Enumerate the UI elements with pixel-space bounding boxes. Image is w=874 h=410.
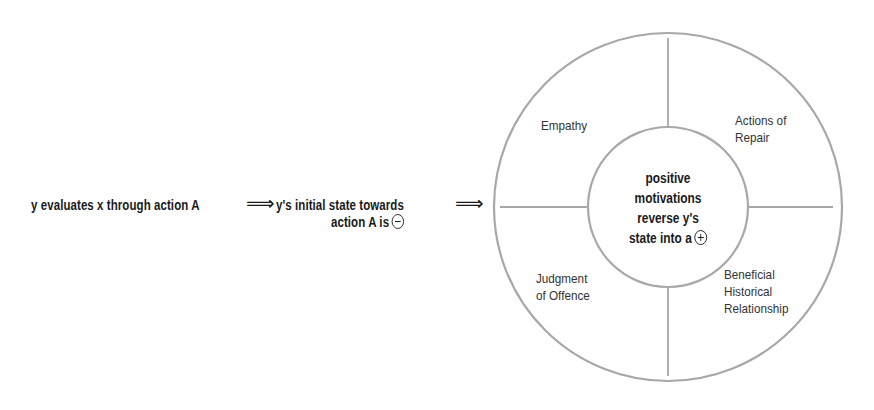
segment-label-line: Actions of — [735, 112, 786, 129]
flow-step-initial-state-line1: y's initial state towards — [276, 197, 404, 213]
center-line: reverse y's — [609, 208, 728, 228]
diagram-canvas: y evaluates x through action A ⟹ y's ini… — [0, 0, 874, 410]
center-line: state into a — [609, 228, 728, 248]
center-motivation-text: positive motivations reverse y's state i… — [598, 168, 738, 248]
center-line-text: state into a — [629, 230, 692, 246]
segment-label-line: of Offence — [536, 287, 590, 304]
segment-judgment-of-offence: Judgment of Offence — [536, 270, 590, 304]
flow-step-evaluation: y evaluates x through action A — [31, 197, 200, 213]
segment-actions-of-repair: Actions of Repair — [735, 112, 786, 146]
segment-label-line: Beneficial — [724, 266, 788, 283]
segment-empathy: Empathy — [541, 117, 587, 134]
initial-state-text: action A is — [331, 214, 389, 230]
flow-step-initial-state-line2: action A is — [331, 214, 404, 230]
segment-label-line: Judgment — [536, 270, 590, 287]
double-arrow-icon: ⟹ — [246, 193, 275, 213]
center-line: positive — [609, 168, 728, 188]
segment-beneficial-historical-relationship: Beneficial Historical Relationship — [724, 266, 788, 317]
segment-label-line: Historical — [724, 283, 788, 300]
segment-label-line: Relationship — [724, 300, 788, 317]
segment-label-line: Empathy — [541, 117, 587, 134]
double-arrow-icon: ⟹ — [455, 193, 484, 213]
plus-circle-icon — [694, 230, 707, 245]
segment-label-line: Repair — [735, 129, 786, 146]
center-line: motivations — [609, 188, 728, 208]
minus-circle-icon — [392, 214, 404, 229]
